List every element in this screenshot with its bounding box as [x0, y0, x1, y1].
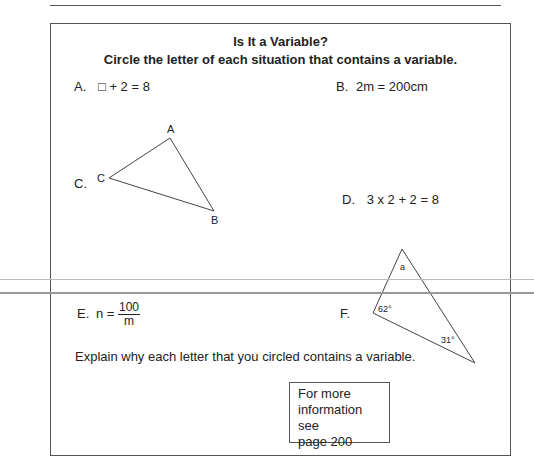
- fraction-denominator: m: [118, 315, 140, 328]
- info-line-3: page 200: [298, 434, 381, 450]
- triangle-abc: [109, 138, 214, 211]
- info-box: For more information see page 200: [289, 382, 390, 443]
- fraction-numerator: 100: [118, 301, 140, 315]
- item-e-letter: E.: [77, 306, 89, 321]
- item-e-prefix: n =: [96, 306, 114, 321]
- item-e-fraction: 100 m: [118, 301, 140, 328]
- item-d-equation: 3 x 2 + 2 = 8: [367, 192, 439, 207]
- vertex-c-label: C: [97, 172, 105, 184]
- item-d: D. 3 x 2 + 2 = 8: [342, 192, 439, 207]
- angle-a-label: a: [400, 262, 405, 272]
- item-f-letter: F.: [340, 306, 350, 321]
- scan-band-dark: [0, 292, 534, 294]
- vertex-a-label: A: [167, 123, 174, 135]
- info-line-2: information see: [298, 402, 381, 434]
- scan-band-light: [0, 279, 534, 280]
- item-d-letter: D.: [342, 192, 355, 207]
- item-e: E. n = 100 m: [77, 301, 140, 328]
- vertex-b-label: B: [211, 214, 218, 226]
- angle-62-label: 62°: [378, 304, 392, 314]
- explain-text: Explain why each letter that you circled…: [75, 349, 415, 364]
- info-line-1: For more: [298, 386, 381, 402]
- triangles-drawing: [0, 0, 534, 469]
- angle-31-label: 31°: [441, 335, 455, 345]
